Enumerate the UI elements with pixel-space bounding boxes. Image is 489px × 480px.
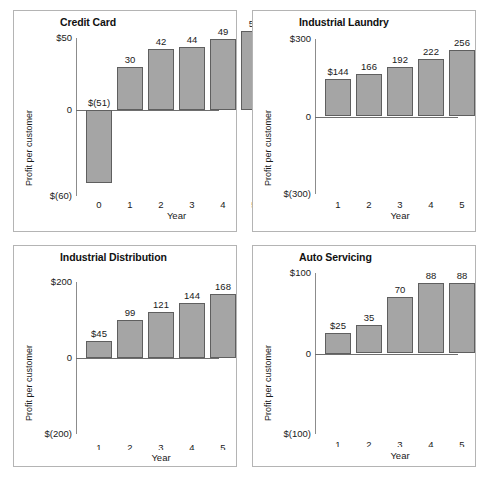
x-axis-zero-line (315, 117, 458, 118)
bar (148, 49, 174, 109)
charts-page: Credit Card$500$(60)Profit per customer$… (0, 0, 489, 480)
bar (418, 59, 444, 116)
chart-industrial-laundry: Industrial Laundry$3000$(300)Profit per … (253, 11, 475, 231)
bar-value-label: 256 (437, 37, 487, 48)
chart-title: Credit Card (60, 16, 116, 28)
x-axis-zero-line (76, 358, 219, 359)
y-axis-tick-label: $(200) (16, 428, 72, 439)
y-axis-tick-label: $200 (16, 276, 72, 287)
chart-title: Industrial Laundry (299, 16, 389, 28)
chart-title: Auto Servicing (299, 251, 372, 263)
bar (449, 50, 475, 116)
bar (387, 67, 413, 117)
chart-title: Industrial Distribution (60, 251, 167, 263)
chart-panel-industrial-distribution: Industrial Distribution$2000$(200)Profit… (13, 245, 237, 467)
bar (210, 39, 236, 109)
y-axis-tick-label: $300 (255, 33, 311, 44)
bar (117, 67, 143, 110)
bar (325, 79, 351, 116)
y-axis-title: Profit per customer (24, 110, 34, 186)
bar (86, 341, 112, 358)
bar (117, 320, 143, 358)
bar (325, 333, 351, 353)
bar (179, 47, 205, 110)
bar (356, 74, 382, 117)
chart-panel-industrial-laundry: Industrial Laundry$3000$(300)Profit per … (252, 10, 476, 232)
chart-auto-servicing: Auto Servicing$1000$(100)Profit per cust… (253, 246, 475, 466)
bar-value-label: 88 (437, 270, 487, 281)
x-axis-tick-label: 5 (441, 199, 483, 210)
y-axis-line (76, 38, 77, 196)
chart-credit-card: Credit Card$500$(60)Profit per customer$… (14, 11, 236, 231)
y-axis-tick-label: $(300) (255, 188, 311, 199)
y-axis-tick-label: 0 (30, 104, 72, 115)
y-axis-tick-label: $(100) (255, 428, 311, 439)
y-axis-title: Profit per customer (24, 345, 34, 421)
x-axis-title: Year (76, 210, 277, 221)
y-axis-tick-label: $(60) (30, 190, 72, 201)
chart-panel-auto-servicing: Auto Servicing$1000$(100)Profit per cust… (252, 245, 476, 467)
x-axis-zero-line (315, 354, 458, 355)
y-axis-title: Profit per customer (263, 345, 273, 421)
x-axis-title: Year (76, 452, 246, 463)
bar (179, 303, 205, 358)
y-axis-tick-label: $50 (30, 32, 72, 43)
x-axis-title: Year (315, 210, 485, 221)
chart-industrial-distribution: Industrial Distribution$2000$(200)Profit… (14, 246, 236, 466)
bar (449, 283, 475, 354)
bar (387, 297, 413, 353)
x-axis-title: Year (315, 450, 485, 461)
bar-value-label: 168 (198, 281, 248, 292)
chart-panel-credit-card: Credit Card$500$(60)Profit per customer$… (13, 10, 237, 232)
bar (86, 110, 112, 183)
bar (148, 312, 174, 358)
y-axis-tick-label: $100 (255, 267, 311, 278)
bar (356, 325, 382, 353)
bar (418, 283, 444, 354)
x-axis-tick-label: 5 (202, 442, 244, 450)
bar (210, 294, 236, 358)
x-axis-tick-label: 5 (441, 439, 483, 447)
y-axis-title: Profit per customer (263, 110, 273, 186)
